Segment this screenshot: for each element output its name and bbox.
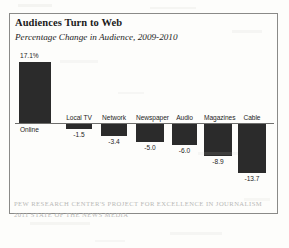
bar-group-magazines: -8.9Magazines [204, 45, 232, 195]
value-label-cable: -13.7 [238, 175, 266, 183]
bar-group-network: -3.4Network [101, 45, 127, 195]
chart-subtitle: Percentage Change in Audience, 2009-2010 [15, 31, 277, 43]
value-label-magazines: -8.9 [204, 158, 232, 166]
source-line-1: PEW RESEARCH CENTER'S PROJECT FOR EXCELL… [14, 199, 276, 210]
bar-group-audio: -6.0Audio [172, 45, 197, 195]
bar-group-cable: -13.7Cable [238, 45, 266, 195]
bar-network [101, 124, 127, 136]
chart-title: Audiences Turn to Web [15, 17, 277, 29]
bar-group-newspaper: -5.0Newspaper [136, 45, 164, 195]
bar-local-tv [66, 124, 92, 129]
value-label-network: -3.4 [101, 138, 127, 146]
category-label-newspaper: Newspaper [136, 114, 164, 122]
bar-magazines [204, 124, 232, 156]
value-label-audio: -6.0 [172, 147, 197, 155]
figure-frame: Audiences Turn to Web Percentage Change … [9, 13, 278, 214]
category-label-audio: Audio [172, 114, 197, 122]
bar-group-local-tv: -1.5Local TV [66, 45, 92, 195]
value-label-newspaper: -5.0 [136, 144, 164, 152]
bar-newspaper [136, 124, 164, 142]
category-label-local-tv: Local TV [66, 114, 92, 122]
category-label-online: Online [19, 126, 52, 134]
category-label-network: Network [101, 114, 127, 122]
bar-group-online: 17.1%Online [19, 45, 51, 195]
bar-audio [172, 124, 197, 145]
value-label-local-tv: -1.5 [66, 131, 92, 139]
source-note: PEW RESEARCH CENTER'S PROJECT FOR EXCELL… [14, 199, 276, 220]
bar-cable [238, 124, 266, 173]
category-label-cable: Cable [238, 114, 266, 122]
value-label-online: 17.1% [19, 52, 52, 60]
title-block: Audiences Turn to Web Percentage Change … [10, 14, 277, 43]
bar-online [19, 62, 51, 123]
category-label-magazines: Magazines [204, 114, 232, 122]
source-line-2: 2011 STATE OF THE NEWS MEDIA [14, 210, 276, 221]
bar-chart-plot: 17.1%Online-1.5Local TV-3.4Network-5.0Ne… [15, 45, 274, 195]
